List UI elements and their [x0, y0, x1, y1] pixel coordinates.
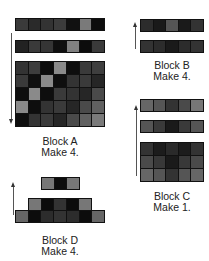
- fabric-square: [154, 41, 166, 52]
- fabric-square: [54, 62, 66, 74]
- fabric-square: [67, 88, 79, 100]
- fabric-square: [154, 169, 166, 181]
- sew-direction-arrow-up-icon: [135, 25, 136, 49]
- fabric-square: [141, 20, 153, 31]
- fabric-square: [179, 20, 191, 31]
- fabric-square: [54, 19, 66, 30]
- fabric-square: [29, 199, 41, 210]
- fabric-square: [29, 75, 41, 87]
- fabric-square: [191, 20, 203, 31]
- fabric-square: [29, 88, 41, 100]
- block-a-quantity: Make 4.: [25, 147, 95, 158]
- fabric-square: [55, 178, 67, 189]
- fabric-square: [92, 114, 104, 126]
- block-c-strip-1: [140, 99, 204, 112]
- block-a-label: Block A Make 4.: [25, 136, 95, 158]
- fabric-square: [80, 75, 92, 87]
- fabric-square: [154, 100, 166, 111]
- fabric-square: [154, 143, 166, 155]
- fabric-square: [92, 211, 104, 222]
- fabric-square: [54, 199, 66, 210]
- fabric-square: [179, 100, 191, 111]
- fabric-square: [141, 100, 153, 111]
- fabric-square: [141, 121, 153, 132]
- fabric-square: [67, 211, 79, 222]
- fabric-square: [67, 178, 79, 189]
- fabric-square: [54, 41, 66, 52]
- fabric-square: [67, 62, 79, 74]
- fabric-square: [179, 143, 191, 155]
- block-c-strip-2: [140, 120, 204, 133]
- fabric-square: [54, 88, 66, 100]
- block-b-quantity: Make 4.: [137, 71, 207, 82]
- fabric-square: [92, 41, 104, 52]
- fabric-square: [80, 211, 92, 222]
- block-c-quantity: Make 1.: [137, 202, 207, 213]
- fabric-square: [42, 178, 54, 189]
- fabric-square: [179, 156, 191, 168]
- fabric-square: [179, 41, 191, 52]
- fabric-square: [29, 211, 41, 222]
- block-b-strip-2: [140, 40, 204, 53]
- fabric-square: [16, 211, 28, 222]
- fabric-square: [191, 100, 203, 111]
- fabric-square: [29, 101, 41, 113]
- sew-direction-arrow-down-icon: [11, 33, 12, 121]
- block-c-label: Block C Make 1.: [137, 191, 207, 213]
- fabric-square: [54, 211, 66, 222]
- fabric-square: [191, 121, 203, 132]
- sew-direction-arrow-up-icon: [13, 185, 14, 215]
- fabric-square: [41, 19, 53, 30]
- fabric-square: [141, 143, 153, 155]
- fabric-square: [80, 62, 92, 74]
- fabric-square: [154, 156, 166, 168]
- fabric-square: [80, 114, 92, 126]
- fabric-square: [67, 199, 79, 210]
- fabric-square: [92, 19, 104, 30]
- fabric-square: [166, 20, 178, 31]
- fabric-square: [79, 199, 91, 210]
- fabric-square: [80, 19, 92, 30]
- fabric-square: [141, 156, 153, 168]
- fabric-square: [191, 156, 203, 168]
- fabric-square: [54, 114, 66, 126]
- fabric-square: [16, 62, 28, 74]
- fabric-square: [92, 62, 104, 74]
- fabric-square: [16, 75, 28, 87]
- fabric-square: [29, 19, 41, 30]
- fabric-square: [92, 75, 104, 87]
- fabric-square: [179, 121, 191, 132]
- fabric-square: [191, 143, 203, 155]
- block-b-strip-1: [140, 19, 204, 32]
- fabric-square: [41, 114, 53, 126]
- block-d-top-row: [41, 177, 80, 190]
- fabric-square: [16, 41, 28, 52]
- fabric-square: [166, 143, 178, 155]
- fabric-square: [166, 169, 178, 181]
- fabric-square: [191, 41, 203, 52]
- fabric-square: [166, 156, 178, 168]
- fabric-square: [16, 101, 28, 113]
- fabric-square: [166, 41, 178, 52]
- fabric-square: [29, 41, 41, 52]
- fabric-square: [41, 101, 53, 113]
- block-d-quantity: Make 4.: [25, 246, 95, 257]
- fabric-square: [141, 41, 153, 52]
- fabric-square: [16, 88, 28, 100]
- fabric-square: [67, 101, 79, 113]
- fabric-square: [67, 19, 79, 30]
- block-d-label: Block D Make 4.: [25, 235, 95, 257]
- fabric-square: [179, 169, 191, 181]
- fabric-square: [41, 41, 53, 52]
- fabric-square: [80, 41, 92, 52]
- fabric-square: [191, 169, 203, 181]
- fabric-square: [29, 114, 41, 126]
- fabric-square: [16, 19, 28, 30]
- fabric-square: [54, 101, 66, 113]
- block-a-strip-2: [15, 40, 105, 53]
- fabric-square: [41, 211, 53, 222]
- fabric-square: [54, 75, 66, 87]
- fabric-square: [16, 114, 28, 126]
- block-a-grid: [15, 61, 105, 127]
- fabric-square: [41, 88, 53, 100]
